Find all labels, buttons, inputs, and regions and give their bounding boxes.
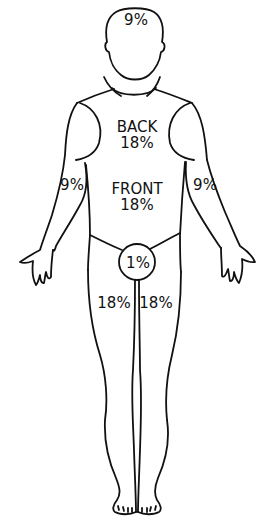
shoulder-line-right — [154, 89, 192, 103]
torso-front-label: FRONT 18% — [101, 182, 173, 214]
shoulder-line-left — [77, 89, 114, 103]
right-arm-inner — [186, 162, 221, 248]
right-leg-inner — [138, 280, 141, 512]
head-percent-label: 9% — [116, 13, 156, 29]
right-leg-percent-label: 18% — [136, 296, 176, 312]
left-toes — [118, 506, 132, 512]
torso-right-side — [180, 162, 185, 272]
torso-back-label: BACK 18% — [105, 120, 169, 152]
left-leg-percent-label: 18% — [94, 296, 134, 312]
left-arm-percent-label: 9% — [56, 178, 88, 194]
right-toes — [142, 506, 156, 512]
left-arm-outer — [20, 103, 77, 285]
left-leg-inner — [132, 280, 136, 512]
genital-percent-label: 1% — [122, 256, 154, 272]
right-arm-percent-label: 9% — [189, 178, 221, 194]
right-shoulder-arc — [169, 103, 194, 160]
front-percent: 18% — [101, 198, 173, 214]
back-percent: 18% — [105, 136, 169, 152]
waist-right — [150, 233, 180, 249]
waist-left — [90, 235, 122, 250]
body-diagram: 9% BACK 18% FRONT 18% 9% 9% 1% 18% 18% — [0, 0, 270, 531]
left-shoulder-arc — [76, 103, 100, 160]
